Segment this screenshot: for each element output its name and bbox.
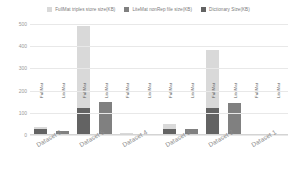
- legend-label: Dictionary Size(KB): [209, 7, 250, 12]
- y-axis-tick-label: 200: [19, 88, 27, 94]
- legend-swatch-icon: [201, 7, 206, 12]
- bar-group: FullMatLiteMat: [30, 24, 73, 135]
- y-axis-tick-label: 0: [24, 132, 27, 138]
- y-axis-tick-label: 500: [19, 21, 27, 27]
- x-axis-label-cell: Dataset 2: [202, 136, 245, 182]
- x-axis-label-cell: Dataset 1: [245, 136, 288, 182]
- legend-label: FullMat triples store size(KB): [55, 7, 115, 12]
- legend-swatch-icon: [47, 7, 52, 12]
- x-axis-label-cell: Dataset 6: [30, 136, 73, 182]
- legend-item[interactable]: LiteMat nonRep file size(KB): [124, 7, 192, 12]
- gridline: [30, 91, 288, 92]
- y-axis-tick-label: 300: [19, 65, 27, 71]
- bar-group: FullMatLiteMat: [116, 24, 159, 135]
- gridline: [30, 24, 288, 25]
- bar-segment: [206, 50, 219, 109]
- bar-group: FullMatLiteMat: [202, 24, 245, 135]
- x-axis-label-cell: Dataset 3: [159, 136, 202, 182]
- bar-group: FullMatLiteMat: [159, 24, 202, 135]
- bar-groups: FullMatLiteMatFullMatLiteMatFullMatLiteM…: [30, 24, 288, 135]
- bar-group: FullMatLiteMat: [73, 24, 116, 135]
- legend-swatch-icon: [124, 7, 129, 12]
- bar[interactable]: FullMat: [77, 26, 90, 135]
- bar-group: FullMatLiteMat: [245, 24, 288, 135]
- legend-item[interactable]: Dictionary Size(KB): [201, 7, 250, 12]
- bar-chart: FullMat triples store size(KB)LiteMat no…: [0, 0, 297, 185]
- legend-label: LiteMat nonRep file size(KB): [132, 7, 192, 12]
- plot-area: FullMatLiteMatFullMatLiteMatFullMatLiteM…: [30, 24, 288, 135]
- bar[interactable]: FullMat: [206, 50, 219, 135]
- gridline: [30, 68, 288, 69]
- legend-item[interactable]: FullMat triples store size(KB): [47, 7, 115, 12]
- x-axis-labels: Dataset 6Dataset 5Dataset 4Dataset 3Data…: [30, 136, 288, 182]
- y-axis-tick-label: 400: [19, 43, 27, 49]
- gridline: [30, 113, 288, 114]
- x-axis-label-cell: Dataset 4: [116, 136, 159, 182]
- chart-legend: FullMat triples store size(KB)LiteMat no…: [0, 7, 297, 12]
- gridline: [30, 46, 288, 47]
- y-axis-tick-label: 100: [19, 110, 27, 116]
- x-axis-label-cell: Dataset 5: [73, 136, 116, 182]
